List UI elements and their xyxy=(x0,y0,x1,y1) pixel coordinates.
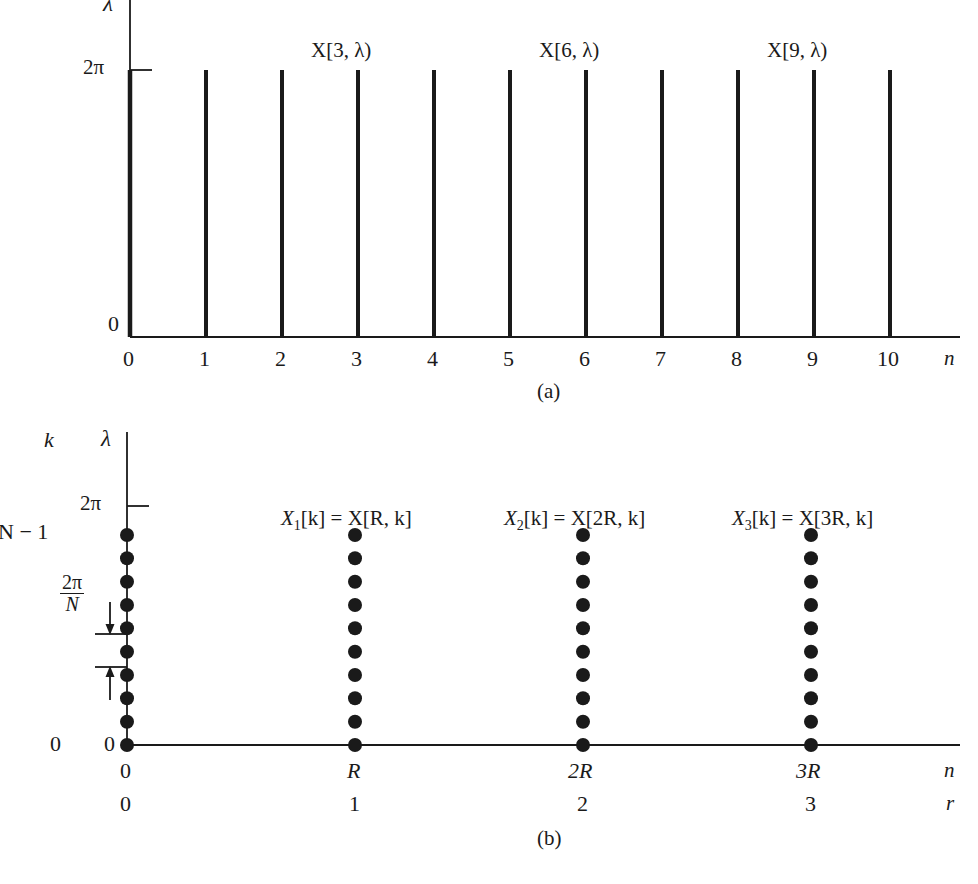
panel-a-xtick-4: 4 xyxy=(427,348,438,370)
panel-a-y-axis-label: λ xyxy=(103,0,113,15)
axis-dot-k3 xyxy=(120,668,134,682)
panel-b-rtick-0: 0 xyxy=(120,793,131,815)
panel-b-spacing-numerator: 2π xyxy=(60,572,84,593)
axis-dot-k7 xyxy=(120,575,134,589)
panel-b-column-label-3-base: X xyxy=(732,506,745,530)
panel-a-stem-label-3: X[3, λ) xyxy=(311,40,371,61)
axis-dot-k2 xyxy=(120,691,134,705)
panel-a-plot xyxy=(0,0,978,400)
panel-b-y-origin-label: 0 xyxy=(104,733,115,755)
axis-dot-k0 xyxy=(120,738,134,752)
panel-b-column-label-3-rest: [k] = X[3R, k] xyxy=(752,506,874,530)
panel-b-column-label-1: X1[k] = X[R, k] xyxy=(281,508,412,533)
panel-b-column-label-1-rest: [k] = X[R, k] xyxy=(301,506,412,530)
panel-a-xtick-5: 5 xyxy=(503,348,514,370)
axis-dot-k4 xyxy=(120,645,134,659)
panel-b-column-label-3: X3[k] = X[3R, k] xyxy=(732,508,873,533)
panel-b-rtick-2: 2 xyxy=(577,793,588,815)
panel-a-xtick-0: 0 xyxy=(123,348,134,370)
panel-a-xtick-1: 1 xyxy=(199,348,210,370)
panel-b-k-axis-label: k xyxy=(44,429,54,451)
panel-b-column-label-2-sub: 2 xyxy=(517,518,524,533)
panel-b-column-label-3-sub: 3 xyxy=(745,518,752,533)
axis-dot-k8 xyxy=(120,551,134,565)
panel-a-xtick-10: 10 xyxy=(877,348,899,370)
panel-b-dot-column-R xyxy=(348,528,362,752)
panel-b-spacing-arrow-down xyxy=(106,602,115,635)
panel-b-dot-column-3R xyxy=(804,528,818,752)
panel-b-spacing-arrow-up xyxy=(106,666,115,700)
panel-b-y-tick-label-2pi: 2π xyxy=(80,493,101,514)
panel-a-caption: (a) xyxy=(537,381,560,402)
panel-a-x-axis-label: n xyxy=(944,348,955,369)
panel-b-column-label-1-sub: 1 xyxy=(294,518,301,533)
panel-a-y-tick-label-2pi: 2π xyxy=(83,57,104,78)
panel-b-spacing-label: 2π N xyxy=(60,572,84,615)
panel-b-plot xyxy=(0,430,978,850)
panel-a-xtick-7: 7 xyxy=(655,348,666,370)
panel-a-stems xyxy=(130,70,890,337)
panel-b-column-label-2-base: X xyxy=(504,506,517,530)
axis-dot-k5 xyxy=(120,621,134,635)
panel-a-stem-label-6: X[6, λ) xyxy=(539,40,599,61)
axis-dot-k1 xyxy=(120,715,134,729)
panel-b-column-label-2-rest: [k] = X[2R, k] xyxy=(524,506,646,530)
panel-b-column-label-1-base: X xyxy=(281,506,294,530)
panel-a-y-origin-label: 0 xyxy=(108,313,119,335)
panel-b-dot-column-2R xyxy=(576,528,590,752)
panel-a-stem-label-9: X[9, λ) xyxy=(767,40,827,61)
panel-a-xtick-8: 8 xyxy=(731,348,742,370)
figure-canvas: λ 2π 0 0 1 2 3 4 5 6 7 8 9 10 n X[3, λ) … xyxy=(0,0,978,884)
panel-b-xtick-2R: 2R xyxy=(568,760,592,782)
panel-a-xtick-2: 2 xyxy=(275,348,286,370)
panel-b-xtick-0: 0 xyxy=(120,760,131,782)
panel-b-column-label-2: X2[k] = X[2R, k] xyxy=(504,508,645,533)
panel-b-k-bottom-label: 0 xyxy=(50,733,61,755)
axis-dot-k6 xyxy=(120,598,134,612)
panel-b-y-axis-label: λ xyxy=(101,427,111,450)
panel-a-xtick-6: 6 xyxy=(579,348,590,370)
panel-b-x-axis-label: n xyxy=(944,760,955,781)
panel-b-caption: (b) xyxy=(537,828,562,849)
panel-a-xtick-9: 9 xyxy=(807,348,818,370)
axis-dot-k9 xyxy=(120,528,134,542)
panel-b-rtick-3: 3 xyxy=(805,793,816,815)
panel-b-k-top-label: N − 1 xyxy=(0,521,48,543)
panel-b-r-axis-label: r xyxy=(946,793,954,814)
panel-b-spacing-denominator: N xyxy=(60,593,84,615)
panel-b-xtick-R: R xyxy=(347,760,360,782)
panel-b-xtick-3R: 3R xyxy=(796,760,820,782)
panel-a-xtick-3: 3 xyxy=(351,348,362,370)
panel-b-rtick-1: 1 xyxy=(349,793,360,815)
